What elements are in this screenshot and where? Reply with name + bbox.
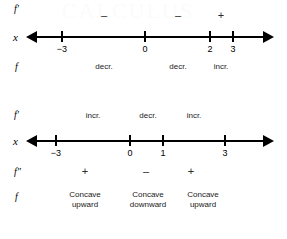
row-label-f: f [15,62,18,72]
axis-tick [144,31,146,42]
axis-line [34,140,264,142]
axis-arrow-right [263,31,274,43]
concavity-interval-2: Concave downward [121,190,175,209]
concavity-interval-3: Concave upward [176,190,230,209]
axis-tick [129,135,131,146]
axis-line [34,36,264,38]
row-label-f-double-prime: f″ [14,167,21,177]
second-derivative-chart: f′ incr. decr. incr. x −3 0 1 3 f″ + – +… [0,108,287,239]
axis-tick [55,135,57,146]
behavior-interval-1: decr. [83,62,125,72]
tick-label-3-2: 3 [213,149,237,158]
concavity-interval-2-line2: downward [121,200,175,210]
concavity-sign-interval-1: + [75,166,95,177]
behavior-interval-2: decr. [157,62,199,72]
tick-label-3: 3 [221,45,245,54]
behavior-interval-3: incr. [200,62,242,72]
axis-tick [224,135,226,146]
concavity-interval-3-line2: upward [176,200,230,210]
axis-tick [232,31,234,42]
concavity-sign-interval-2: – [136,166,156,177]
axis-tick [162,135,164,146]
concavity-interval-2-line1: Concave [121,190,175,200]
concavity-interval-1: Concave upward [58,190,112,209]
tick-label-1-2: 1 [151,149,175,158]
row-label-f-2: f [15,192,18,202]
tick-label-0: 0 [133,45,157,54]
concavity-interval-3-line1: Concave [176,190,230,200]
tick-label-2: 2 [198,45,222,54]
concavity-interval-1-line1: Concave [58,190,112,200]
tick-label-neg3-2: −3 [44,149,68,158]
tick-label-0-2: 0 [118,149,142,158]
axis-tick [209,31,211,42]
axis-tick [61,31,63,42]
concavity-sign-interval-3: + [181,166,201,177]
tick-label-neg3: −3 [50,45,74,54]
first-derivative-chart: f′ – – + x −3 0 2 3 f decr. decr. incr. [0,0,287,90]
concavity-interval-1-line2: upward [58,200,112,210]
axis-arrow-right [263,135,274,147]
